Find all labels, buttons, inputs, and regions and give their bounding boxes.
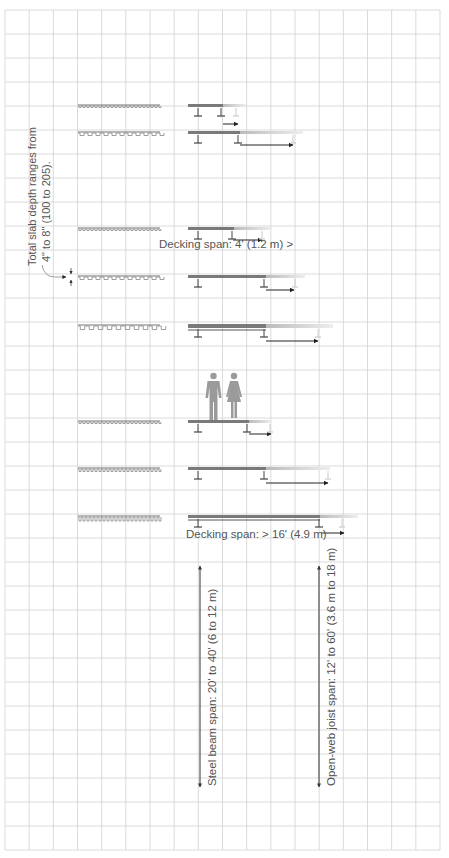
steel-beam-support-icon [194, 471, 202, 479]
joist-span-label: Open-web joist span: 12' to 60' (3.6 m t… [325, 547, 337, 786]
deck-slab [188, 467, 266, 470]
steel-beam-support-icon [194, 108, 202, 116]
steel-beam-support-icon [194, 135, 202, 143]
steel-beam-support-icon [267, 424, 273, 432]
steel-beam-support-icon [315, 329, 321, 337]
steel-beam-support-icon [234, 135, 242, 143]
deck-row [78, 467, 330, 483]
steel-beam-support-icon [260, 279, 268, 287]
deck-profile-section [78, 229, 161, 231]
decking-span-max-label: Decking span: > 16' (4.9 m) [186, 528, 327, 540]
deck-row [78, 131, 303, 145]
steel-beam-support-icon [243, 424, 251, 432]
people-figures-icon [206, 373, 243, 420]
deck-profile-section [78, 277, 164, 280]
slab-depth-label-line1: Total slab depth ranges from [26, 127, 38, 266]
slab-depth-label-line2: 4" to 8" (100 to 205). [40, 161, 52, 262]
steel-beam-support-icon [194, 424, 202, 432]
deck-row [78, 420, 272, 434]
deck-slab [188, 420, 249, 423]
deck-profile-section [78, 422, 161, 424]
steel-beam-support-icon [260, 471, 268, 479]
deck-slab [188, 275, 266, 278]
structural-span-diagram: Total slab depth ranges from 4" to 8" (1… [0, 0, 449, 858]
deck-profile-section [78, 133, 164, 136]
steel-beam-support-icon [233, 108, 239, 116]
steel-beam-support-icon [325, 471, 331, 479]
joist-span-dimension: Open-web joist span: 12' to 60' (3.6 m t… [319, 547, 337, 787]
steel-beam-support-icon [194, 279, 202, 287]
deck-profile-section [78, 326, 166, 330]
deck-rows [78, 104, 358, 533]
deck-profile-section [78, 469, 161, 472]
steel-beam-support-icon [217, 108, 225, 116]
deck-slab [188, 515, 320, 518]
steel-beam-support-icon [339, 519, 345, 527]
deck-slab [188, 104, 223, 107]
slab-depth-callout: Total slab depth ranges from 4" to 8" (1… [26, 127, 71, 286]
steel-beam-span-label: Steel beam span: 20' to 40' (6 to 12 m) [206, 588, 218, 786]
steel-beam-support-icon [292, 279, 298, 287]
background-grid [5, 10, 440, 850]
decking-span-min-label: Decking span: 4' (1.2 m) > [159, 238, 293, 250]
deck-slab [188, 227, 234, 230]
deck-slab [188, 131, 240, 134]
deck-slab [188, 324, 266, 328]
deck-profile-section [78, 517, 161, 521]
